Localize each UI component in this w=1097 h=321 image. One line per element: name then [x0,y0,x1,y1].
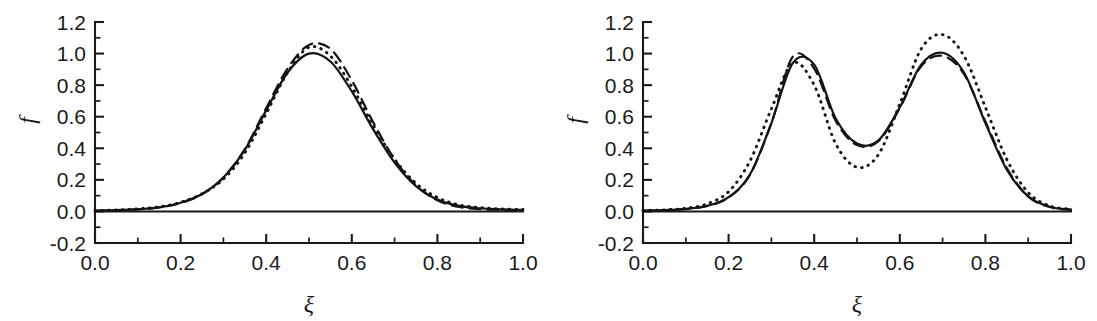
x-tick-label: 1.0 [1056,251,1085,274]
y-tick-label: 0.8 [57,74,86,97]
y-tick-label: 0.0 [57,200,86,223]
y-axis-title: f [562,114,588,124]
x-tick-label: 0.8 [971,251,1000,274]
y-tick-label: 0.4 [57,137,87,160]
chart-svg-right: -0.20.00.20.40.60.81.01.20.00.20.40.60.8… [548,0,1097,321]
axis-spines-left [95,22,523,243]
y-tick-label: 1.0 [57,42,86,65]
x-tick-label: 0.0 [80,251,109,274]
y-tick-label: 1.2 [605,11,634,34]
x-tick-label: 0.2 [714,251,743,274]
curves-right [643,34,1071,210]
x-axis-left: 0.00.20.40.60.81.0 [80,234,537,274]
y-tick-label: 0.0 [605,200,634,223]
x-tick-label: 0.6 [885,251,914,274]
axis-spine-left [95,22,523,243]
y-axis-title: f [14,114,40,124]
x-tick-label: 0.4 [800,251,830,274]
y-tick-label: 1.0 [605,42,634,65]
x-tick-label: 0.2 [166,251,195,274]
y-tick-label: 0.2 [57,168,86,191]
chart-svg-left: -0.20.00.20.40.60.81.01.20.00.20.40.60.8… [0,0,549,321]
curves-left [95,43,523,211]
curve-dashed-left [95,43,523,211]
y-tick-label: 0.8 [605,74,634,97]
curve-dashed-right [643,53,1071,211]
curve-dotted-right [643,34,1071,210]
y-tick-label: 0.4 [605,137,635,160]
x-tick-label: 0.8 [423,251,452,274]
curve-solid-left [95,53,523,211]
x-tick-label: 0.6 [337,251,366,274]
curve-dotted-left [95,46,523,210]
y-tick-label: 0.6 [57,105,86,128]
figure-container: -0.20.00.20.40.60.81.01.20.00.20.40.60.8… [0,0,1097,321]
chart-panel-left: -0.20.00.20.40.60.81.01.20.00.20.40.60.8… [0,0,549,321]
x-axis-right: 0.00.20.40.60.81.0 [628,234,1085,274]
axis-spines-right [643,22,1071,243]
x-tick-label: 1.0 [508,251,537,274]
y-tick-label: 0.6 [605,105,634,128]
x-axis-title: ξ [304,291,315,317]
x-tick-label: 0.0 [628,251,657,274]
x-axis-title: ξ [852,291,863,317]
axis-spine-right [643,22,1071,243]
x-tick-label: 0.4 [252,251,282,274]
y-tick-label: 0.2 [605,168,634,191]
chart-panel-right: -0.20.00.20.40.60.81.01.20.00.20.40.60.8… [548,0,1097,321]
curve-solid-right [643,53,1071,211]
y-tick-label: 1.2 [57,11,86,34]
